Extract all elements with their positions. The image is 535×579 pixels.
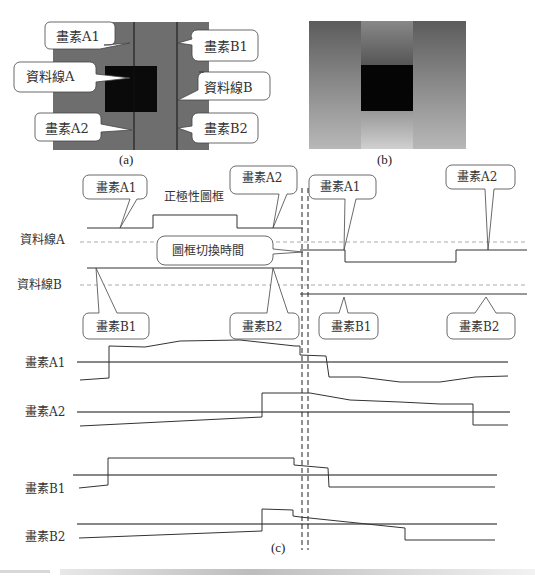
pixel-a2-waveform xyxy=(80,393,508,426)
lcd-polarity-diagram: 畫素A1 資料線A 畫素A2 畫素B1 資料線B 畫素B2 (a) (b) xyxy=(0,0,535,579)
panel-c-labels: 資料線A 資料線B 正極性圖框 畫素A1 畫素A2 畫素B1 畫素B2 圖框切換… xyxy=(17,165,515,555)
label-pixel-b2: 畫素B2 xyxy=(25,529,65,544)
panel-b: (b) xyxy=(309,21,466,167)
svg-text:畫素A1: 畫素A1 xyxy=(320,179,360,194)
callout-top-pixel-a2-frame1: 畫素A2 xyxy=(230,166,297,228)
svg-text:畫素B2: 畫素B2 xyxy=(459,319,499,334)
label-pixel-a2: 畫素A2 xyxy=(25,404,65,419)
svg-text:畫素A1: 畫素A1 xyxy=(56,29,100,44)
label-pixel-b1: 畫素B1 xyxy=(25,481,65,496)
panel-a-black-square xyxy=(105,66,157,112)
label-data-line-a: 資料線A xyxy=(20,232,65,247)
panel-c xyxy=(73,188,527,550)
data-line-a-waveform-frame1 xyxy=(87,215,303,228)
svg-text:畫素B2: 畫素B2 xyxy=(204,121,248,136)
data-line-a-waveform-frame2 xyxy=(300,250,527,262)
svg-text:畫素A2: 畫素A2 xyxy=(45,121,89,136)
caption-c: (c) xyxy=(271,540,285,555)
callout-frame-switch-time: 圖框切換時間 xyxy=(157,236,303,265)
callout-bottom-pixel-b1-frame1: 畫素B1 xyxy=(83,268,149,339)
label-data-line-b: 資料線B xyxy=(17,277,62,292)
footer-bar-left xyxy=(0,570,50,573)
pixel-a1-waveform xyxy=(80,340,508,382)
caption-a: (a) xyxy=(119,152,133,167)
callout-top-pixel-a1-frame2: 畫素A1 xyxy=(309,175,376,250)
callout-top-pixel-a1-frame1: 畫素A1 xyxy=(83,175,147,228)
label-positive-frame: 正極性圖框 xyxy=(164,189,224,204)
svg-text:資料線B: 資料線B xyxy=(204,80,253,95)
svg-text:畫素B1: 畫素B1 xyxy=(96,319,136,334)
svg-text:圖框切換時間: 圖框切換時間 xyxy=(172,244,244,258)
svg-text:畫素A1: 畫素A1 xyxy=(96,180,136,195)
label-pixel-a1: 畫素A1 xyxy=(25,355,65,370)
svg-text:畫素B1: 畫素B1 xyxy=(204,39,248,54)
svg-text:資料線A: 資料線A xyxy=(26,69,75,84)
svg-text:畫素A2: 畫素A2 xyxy=(457,169,497,184)
svg-text:畫素B1: 畫素B1 xyxy=(331,319,371,334)
svg-text:畫素B2: 畫素B2 xyxy=(242,319,282,334)
callout-bottom-pixel-b2-frame2-b1: 畫素B1 xyxy=(319,297,378,339)
callout-top-pixel-a2-frame2: 畫素A2 xyxy=(446,165,515,250)
panel-a: 畫素A1 資料線A 畫素A2 畫素B1 資料線B 畫素B2 (a) xyxy=(14,22,270,167)
footer-bar xyxy=(60,569,535,575)
svg-text:畫素A2: 畫素A2 xyxy=(242,170,282,185)
callout-bottom-pixel-b2-frame2: 畫素B2 xyxy=(447,297,515,339)
callout-bottom-pixel-b2-frame1: 畫素B2 xyxy=(230,268,299,339)
panel-b-black-square xyxy=(361,65,413,111)
caption-b: (b) xyxy=(377,152,392,167)
pixel-b1-waveform xyxy=(79,458,495,488)
